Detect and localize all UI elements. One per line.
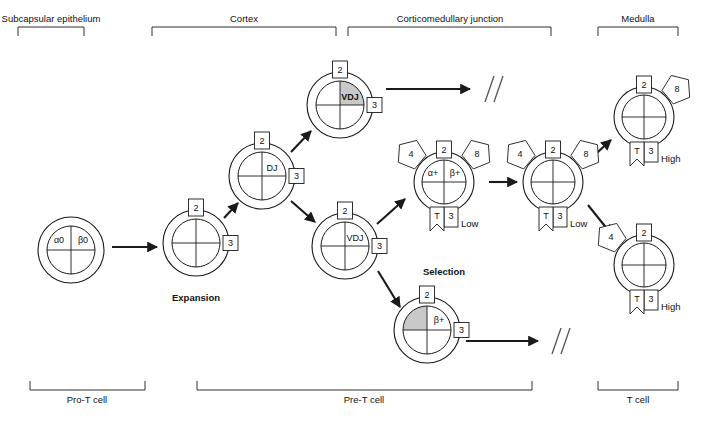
tcr-complex-level-label: High: [661, 153, 681, 164]
pre-t-bracket: [197, 381, 532, 390]
region-label-subcapsular: Subcapsular epithelium: [2, 13, 101, 24]
cell-dj-cell: [229, 143, 295, 209]
apoptosis-slash-top-stroke-2: [494, 76, 503, 102]
tcr-complex-left-label: T: [543, 211, 549, 221]
region-label-cmj: Corticomedullary junction: [397, 13, 504, 24]
arrow-expansion-cell-to-dj-cell: [224, 203, 238, 218]
cd2-box-top-label: 2: [193, 203, 198, 213]
cd2-box-top-label: 2: [550, 145, 555, 155]
diagram-canvas: Subcapsular epitheliumCortexCorticomedul…: [0, 0, 709, 423]
cell-selection-cell-second: [523, 152, 583, 212]
apoptosis-slash-bottom-stroke-2: [561, 328, 570, 354]
tcr-complex-right-label: 3: [448, 211, 453, 221]
cd4-pentagon-label: 4: [518, 149, 523, 159]
cd2-box-top-label: 2: [424, 290, 429, 300]
apoptosis-slash-bottom-stroke-1: [552, 328, 561, 354]
t-cell-bracket: [598, 381, 678, 390]
cd2-box-top-label: 2: [342, 206, 347, 216]
cell-center-label: VDJ: [347, 233, 364, 243]
cd8-pentagon-label: 8: [474, 149, 479, 159]
cd4-pentagon-label: 4: [409, 149, 414, 159]
cell-selection-cell-double-positive: [414, 152, 474, 212]
tcr-complex-right-label: 3: [648, 146, 653, 156]
subcapsular-bracket: [18, 27, 84, 36]
cmj-bracket: [348, 27, 551, 36]
cd2-box-top-label: 2: [441, 145, 446, 155]
quadrant-label-top-left: α0: [54, 235, 64, 245]
cell-cd4-t-cell: [614, 235, 674, 295]
region-label-cortex: Cortex: [230, 13, 258, 24]
cell-pro-t-cell: [38, 217, 104, 283]
cd2-box-top-label: 2: [641, 228, 646, 238]
arrow-dj-cell-to-vdj-cell-middle: [291, 201, 315, 222]
tcr-complex-left-label: T: [634, 294, 640, 304]
cd2-box-top-label: 2: [641, 80, 646, 90]
cortex-bracket: [152, 27, 336, 36]
cell-layer: [38, 61, 690, 363]
quadrant-label-top-right: β0: [78, 235, 88, 245]
diagram-svg: [0, 0, 709, 423]
caption-expansion: Expansion: [172, 292, 220, 303]
quadrant-label-top-right: β+: [434, 315, 444, 325]
apoptosis-slash-top-stroke-1: [485, 76, 494, 102]
cell-beta-plus-cell: [394, 297, 460, 363]
quadrant-label-top-left: α+: [428, 168, 438, 178]
cd3-box-right-label: 3: [228, 238, 233, 248]
cell-vdj-cell: [312, 213, 378, 279]
arrow-vdj-cell-middle-to-selection-cell-1: [377, 199, 405, 224]
cd3-box-right-label: 3: [377, 241, 382, 251]
cell-cd8-t-cell: [614, 87, 674, 147]
cell-center-label: VDJ: [341, 92, 359, 102]
cd3-box-right-label: 3: [459, 325, 464, 335]
region-label-medulla: Medulla: [621, 13, 654, 24]
arrow-vdj-cell-middle-to-beta-plus-cell: [378, 271, 400, 307]
arrow-dj-cell-to-vdj-cell-top: [291, 131, 311, 152]
quadrant-label-top-right: β+: [450, 168, 460, 178]
tcr-complex-level-label: High: [661, 301, 681, 312]
tcr-complex-left-label: T: [434, 211, 440, 221]
tcr-complex-right-label: 3: [648, 294, 653, 304]
cd8-pentagon-label: 8: [674, 84, 679, 94]
tcr-complex-level-label: Low: [570, 218, 587, 229]
region-label-pro-t: Pro-T cell: [67, 394, 107, 405]
tcr-complex-left-label: T: [634, 146, 640, 156]
pro-t-bracket: [30, 381, 145, 390]
cd2-box-top-label: 2: [259, 136, 264, 146]
cell-vdj-cell-shaded: [307, 72, 373, 138]
cell-center-label: DJ: [267, 163, 278, 173]
tcr-complex-right-label: 3: [557, 211, 562, 221]
cd4-pentagon-label: 4: [609, 232, 614, 242]
region-label-t-cell: T cell: [627, 394, 650, 405]
cd3-box-right-label: 3: [294, 171, 299, 181]
caption-selection: Selection: [423, 266, 465, 277]
cd2-box-top-label: 2: [337, 65, 342, 75]
cd3-box-right-label: 3: [372, 100, 377, 110]
region-label-pre-t: Pre-T cell: [344, 394, 384, 405]
medulla-bracket: [598, 27, 678, 36]
tcr-complex-level-label: Low: [461, 218, 478, 229]
cell-expansion-cell: [163, 210, 229, 276]
cd8-pentagon-label: 8: [583, 149, 588, 159]
arrow-layer: [112, 89, 612, 341]
